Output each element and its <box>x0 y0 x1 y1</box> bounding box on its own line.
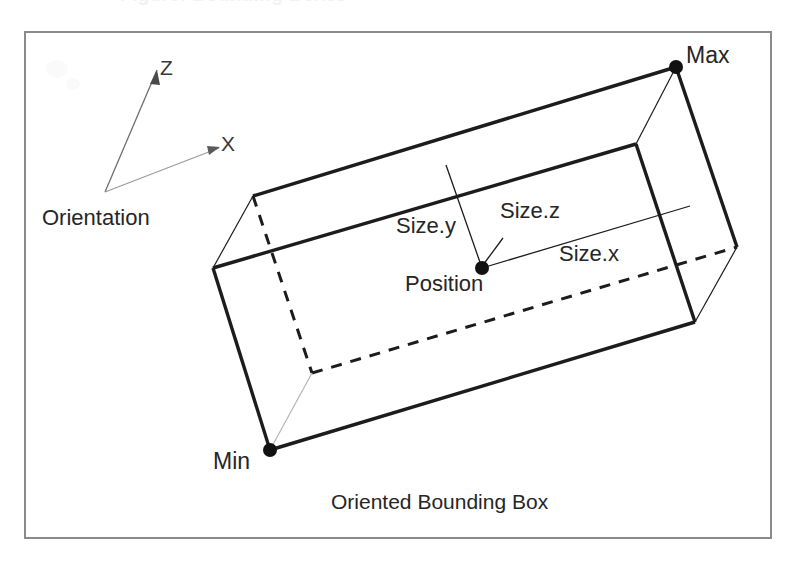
min-corner-dot <box>263 443 277 457</box>
edge-fronttopleft-to-min <box>213 268 270 450</box>
edge-max-to-backbottomright <box>676 67 737 247</box>
z-axis-arrowhead <box>150 70 160 85</box>
figure-border <box>25 32 771 538</box>
hidden-edge-backbottomleft-to-backbottomright <box>312 247 737 373</box>
max-corner-dot <box>669 60 683 74</box>
z-axis-line <box>105 70 157 192</box>
x-axis-label: X <box>221 133 235 154</box>
orientation-gizmo <box>105 70 220 192</box>
size-z-label: Size.z <box>500 200 560 222</box>
max-corner-label: Max <box>686 44 729 67</box>
size-x-label: Size.x <box>559 243 619 265</box>
thin-edges <box>213 67 737 450</box>
position-label: Position <box>405 273 483 295</box>
edge-fronttopright-to-frontbottomright <box>636 144 695 322</box>
z-axis-label: Z <box>160 57 173 78</box>
hidden-edges <box>253 196 737 373</box>
x-axis-arrowhead <box>207 146 220 155</box>
size-z-leader <box>483 238 503 265</box>
min-corner-label: Min <box>213 450 250 473</box>
figure-root: Figure: Bounding Boxes <box>0 0 794 562</box>
edge-min-to-frontbottomright <box>270 322 695 450</box>
hidden-edge-backtopleft-to-backbottomleft <box>253 196 312 373</box>
edge-backtopleft-to-max-thick <box>253 67 676 196</box>
orientation-label: Orientation <box>42 207 150 229</box>
size-y-label: Size.y <box>396 215 456 237</box>
x-axis-line <box>105 148 219 192</box>
bounding-box-diagram <box>0 0 794 562</box>
figure-caption: Oriented Bounding Box <box>331 491 548 512</box>
visible-edges <box>213 67 737 450</box>
